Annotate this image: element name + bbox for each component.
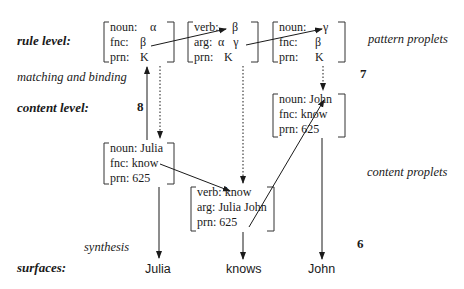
- attr-row: fnc: know: [279, 107, 332, 122]
- bracket-left: [191, 187, 196, 231]
- attr-row: noun: Julia: [110, 141, 163, 156]
- bracket-left: [104, 143, 109, 184]
- pattern-proplet-noun-gamma: noun:γ fnc:β prn:K: [279, 20, 328, 65]
- attr-key: verb:: [194, 20, 232, 35]
- step-number-6: 6: [357, 236, 364, 252]
- content-proplet-john: noun: John fnc: know prn: 625: [279, 92, 332, 137]
- attr-value: β: [140, 35, 146, 49]
- surfaces-level-label: surfaces:: [17, 260, 66, 276]
- content-proplet-julia: noun: Julia fnc: know prn: 625: [110, 141, 163, 186]
- attr-value: K: [140, 50, 149, 64]
- diagram-canvas: rule level: matching and binding content…: [0, 0, 464, 289]
- attr-row: prn: 625: [197, 215, 267, 230]
- bracket-right: [251, 22, 258, 62]
- attr-key: prn:: [110, 50, 140, 65]
- attr-key: noun:: [279, 20, 323, 35]
- attr-key: fnc:: [110, 35, 140, 50]
- attr-row: prn: 625: [279, 122, 332, 137]
- synthesis-annotation: synthesis: [84, 240, 129, 255]
- bracket-right: [338, 22, 345, 62]
- attr-value: γ: [323, 20, 328, 34]
- attr-value: K: [315, 50, 324, 64]
- attr-row: verb: know: [197, 185, 267, 200]
- surface-julia: Julia: [145, 262, 171, 276]
- bracket-right: [167, 143, 174, 184]
- bracket-right: [338, 94, 345, 137]
- attr-value: K: [224, 50, 233, 64]
- rule-level-label: rule level:: [17, 33, 71, 49]
- surface-knows: knows: [226, 262, 261, 276]
- content-level-label: content level:: [17, 100, 89, 116]
- attr-value: β: [232, 20, 238, 34]
- bracket-right: [167, 22, 174, 62]
- bracket-left: [188, 22, 193, 62]
- attr-row: fnc: know: [110, 156, 163, 171]
- attr-row: noun: John: [279, 92, 332, 107]
- bracket-right: [267, 187, 274, 231]
- bracket-left: [104, 22, 109, 62]
- content-proplet-know: verb: know arg: Julia John prn: 625: [197, 185, 267, 230]
- content-proplets-annotation: content proplets: [367, 165, 447, 180]
- bracket-left: [273, 94, 278, 137]
- attr-row: arg: Julia John: [197, 200, 267, 215]
- attr-key: prn:: [279, 50, 315, 65]
- attr-key: prn:: [194, 50, 224, 65]
- step-number-8: 8: [137, 99, 144, 115]
- attr-value: β: [315, 35, 321, 49]
- attr-value: α: [150, 20, 156, 34]
- pattern-proplet-noun-alpha: noun:α fnc:β prn:K: [110, 20, 156, 65]
- attr-value: α γ: [218, 35, 239, 49]
- surface-john: John: [308, 262, 335, 276]
- attr-row: prn: 625: [110, 171, 163, 186]
- pattern-proplets-annotation: pattern proplets: [368, 32, 448, 47]
- attr-key: arg:: [194, 35, 218, 50]
- matching-binding-annotation: matching and binding: [17, 70, 127, 85]
- pattern-proplet-verb-beta: verb:β arg:α γ prn:K: [194, 20, 239, 65]
- step-number-7: 7: [360, 66, 367, 82]
- attr-key: fnc:: [279, 35, 315, 50]
- bracket-left: [273, 22, 278, 62]
- attr-key: noun:: [110, 20, 150, 35]
